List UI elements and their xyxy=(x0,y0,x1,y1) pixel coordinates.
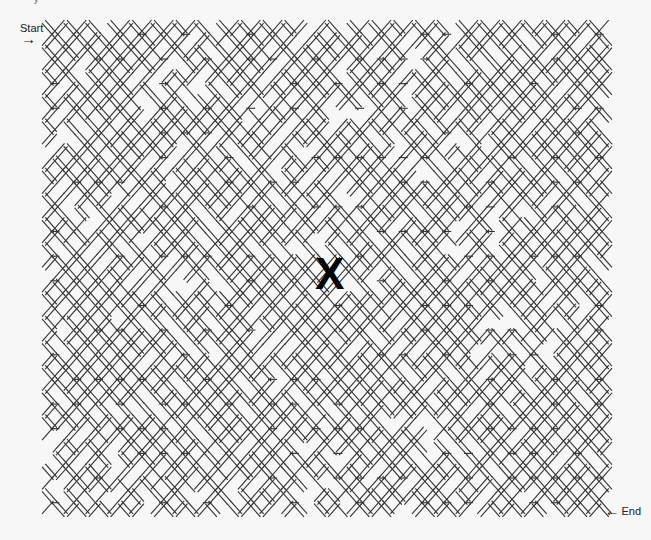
end-marker: ← End xyxy=(604,503,641,518)
end-arrow-icon: ← xyxy=(604,503,619,518)
center-x-marker: X xyxy=(315,252,344,296)
end-label: End xyxy=(621,505,641,517)
start-arrow-icon: → xyxy=(21,31,36,46)
